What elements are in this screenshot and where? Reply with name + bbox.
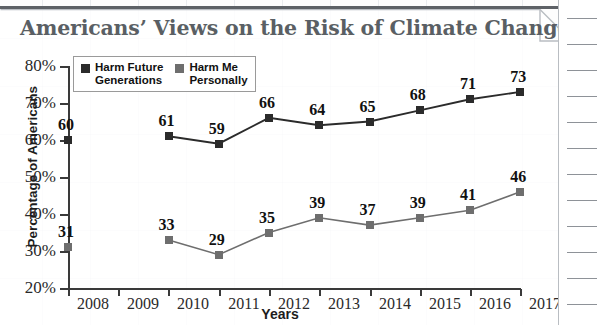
data-point-marker [466, 206, 474, 214]
right-ruled-strip [558, 0, 597, 325]
chart-legend: Harm Future Generations Harm Me Personal… [73, 56, 256, 92]
data-point-marker [215, 140, 223, 148]
data-point-marker [64, 136, 72, 144]
data-point-marker [366, 118, 374, 126]
data-point-marker [516, 88, 524, 96]
data-point-label: 39 [398, 194, 438, 212]
series-lines [0, 0, 597, 325]
data-point-marker [416, 106, 424, 114]
data-point-marker [315, 214, 323, 222]
data-point-marker [516, 188, 524, 196]
data-point-label: 46 [498, 168, 538, 186]
data-point-label: 31 [46, 223, 86, 241]
data-point-marker [466, 95, 474, 103]
data-point-marker [165, 132, 173, 140]
data-point-label: 29 [197, 231, 237, 249]
data-point-label: 71 [448, 75, 488, 93]
data-point-label: 37 [348, 201, 388, 219]
legend-label: Harm Me Personally [189, 61, 247, 86]
legend-label: Harm Future Generations [95, 61, 163, 86]
data-point-label: 61 [147, 112, 187, 130]
data-point-label: 60 [46, 116, 86, 134]
data-point-marker [215, 251, 223, 259]
data-point-label: 66 [247, 94, 287, 112]
data-point-marker [366, 221, 374, 229]
legend-item-harm-me-personally[interactable]: Harm Me Personally [175, 61, 247, 86]
data-point-label: 39 [297, 194, 337, 212]
data-point-label: 59 [197, 120, 237, 138]
data-point-marker [315, 121, 323, 129]
legend-swatch-dark [81, 64, 90, 73]
data-point-marker [64, 243, 72, 251]
data-point-label: 73 [498, 68, 538, 86]
data-point-label: 41 [448, 186, 488, 204]
data-point-label: 35 [247, 209, 287, 227]
data-point-label: 64 [297, 101, 337, 119]
data-point-marker [165, 236, 173, 244]
chart-plot-area: 80% 70% 60% 50% 40% 30% 20% 2008 2009 20… [0, 0, 597, 325]
data-point-marker [265, 229, 273, 237]
data-point-label: 33 [147, 216, 187, 234]
data-point-label: 68 [398, 86, 438, 104]
legend-item-harm-future-generations[interactable]: Harm Future Generations [81, 61, 163, 86]
legend-swatch-gray [175, 64, 184, 73]
data-point-label: 65 [348, 98, 388, 116]
data-point-marker [416, 214, 424, 222]
data-point-marker [265, 114, 273, 122]
